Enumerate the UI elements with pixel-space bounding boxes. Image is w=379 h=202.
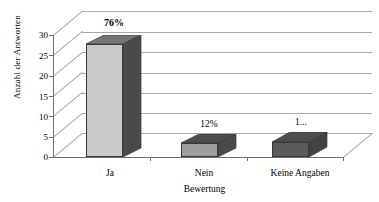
bar-side-face-ja: [123, 35, 142, 157]
y-tick-label: 15: [24, 93, 48, 102]
y-tick-mark: [49, 157, 53, 158]
bar-column-nein: [181, 134, 237, 157]
bar-column-keine-angaben: [272, 132, 328, 157]
grid-diagonal-0: [53, 133, 83, 158]
y-axis-tick-labels: 30 25 20 15 10 5 0: [20, 0, 48, 202]
y-tick-label: 25: [24, 52, 48, 61]
y-axis-line: [53, 35, 54, 158]
y-tick-mark: [49, 137, 53, 138]
grid-diagonal-20: [53, 52, 83, 77]
data-label-ja: 76%: [76, 17, 152, 28]
x-tick-mark: [343, 157, 344, 161]
y-tick-mark: [49, 76, 53, 77]
y-tick-label: 10: [24, 113, 48, 122]
data-label-nein: 12%: [171, 119, 247, 129]
x-tick-label-nein: Nein: [164, 168, 244, 178]
y-tick-mark: [49, 96, 53, 97]
floor-right-diagonal: [343, 133, 373, 158]
bar-column-ja: [86, 35, 142, 157]
x-tick-mark: [247, 157, 248, 161]
gridline-back-25: [82, 32, 372, 33]
data-label-keine-angaben: 1...: [263, 117, 339, 127]
x-tick-label-ja: Ja: [70, 168, 150, 178]
bar-front-face-keine-angaben: [272, 142, 309, 157]
y-tick-label: 0: [24, 153, 48, 162]
chart-ceiling-edge: [82, 11, 372, 12]
y-tick-mark: [49, 35, 53, 36]
y-tick-label: 30: [24, 31, 48, 40]
x-tick-mark: [150, 157, 151, 161]
grid-diagonal-15: [53, 72, 83, 97]
x-axis-line: [53, 157, 343, 158]
bar-front-face-nein: [181, 143, 218, 157]
y-tick-label: 5: [24, 133, 48, 142]
x-axis-title: Bewertung: [154, 184, 226, 194]
y-tick-label: 20: [24, 72, 48, 81]
y-tick-mark: [49, 116, 53, 117]
x-axis-title-wrap: Bewertung: [0, 184, 379, 194]
bar-side-face-keine-angaben: [309, 132, 328, 157]
bar-side-face-nein: [218, 134, 237, 157]
bar-front-face-ja: [86, 44, 123, 157]
grid-diagonal-5: [53, 113, 83, 138]
x-tick-label-keine-angaben: Keine Angaben: [250, 168, 350, 178]
y-tick-mark: [49, 55, 53, 56]
grid-diagonal-25: [53, 31, 83, 56]
grid-diagonal-10: [53, 92, 83, 117]
chart-3d-column: Anzahl der Antworten 30 25 20 15 10 5 0: [0, 0, 379, 202]
